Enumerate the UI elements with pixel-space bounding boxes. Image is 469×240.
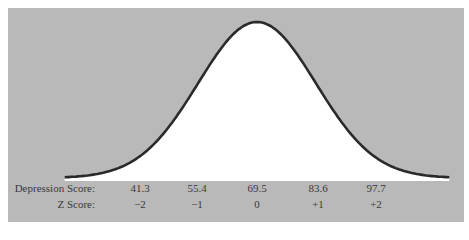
- depression-score-tick: 69.5: [237, 182, 277, 194]
- z-score-tick: −2: [120, 198, 160, 210]
- z-score-tick: +1: [298, 198, 338, 210]
- depression-score-tick: 55.4: [177, 182, 217, 194]
- z-score-tick: 0: [237, 198, 277, 210]
- z-score-label: Z Score:: [57, 198, 95, 210]
- depression-score-tick: 41.3: [120, 182, 160, 194]
- area-under-curve: [65, 22, 450, 181]
- depression-score-tick: 83.6: [298, 182, 338, 194]
- depression-score-row: Depression Score: 41.3 55.4 69.5 83.6 97…: [0, 182, 469, 198]
- z-score-tick: +2: [356, 198, 396, 210]
- z-score-row: Z Score: −2 −1 0 +1 +2: [0, 198, 469, 214]
- depression-score-tick: 97.7: [356, 182, 396, 194]
- depression-score-label: Depression Score:: [15, 182, 95, 194]
- z-score-tick: −1: [177, 198, 217, 210]
